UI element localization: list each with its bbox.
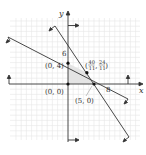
vertex-label-0-4: (0, 4) — [45, 62, 64, 70]
y-axis-arrow-icon — [66, 11, 70, 15]
y-tick-label: 6 — [62, 50, 67, 58]
feasible-region-diagram: y x 6 8 (0, 0) (0, 4) (5, 0) ( 40 11 , 2… — [0, 0, 146, 155]
y-axis-label: y — [58, 9, 64, 18]
vertex-label-5-0: (5, 0) — [75, 97, 94, 105]
svg-text:11: 11 — [89, 65, 95, 71]
vertex-label-intersection: ( 40 11 , 24 11 ) — [85, 59, 108, 72]
vertex-intersection — [85, 71, 88, 74]
vertex-origin — [66, 82, 69, 85]
x-tick-label: 8 — [106, 86, 110, 94]
arrow-up-icon — [7, 75, 10, 79]
svg-text:): ) — [105, 62, 108, 70]
vertex-label-origin: (0, 0) — [45, 88, 64, 96]
vertex-0-4 — [66, 62, 69, 65]
x-axis-label: x — [139, 86, 144, 95]
svg-text:,: , — [95, 62, 97, 70]
vertex-5-0 — [92, 82, 95, 85]
arrow-up-icon — [126, 75, 129, 79]
svg-text:40: 40 — [89, 59, 95, 65]
arrow-down-left-icon — [6, 40, 10, 44]
